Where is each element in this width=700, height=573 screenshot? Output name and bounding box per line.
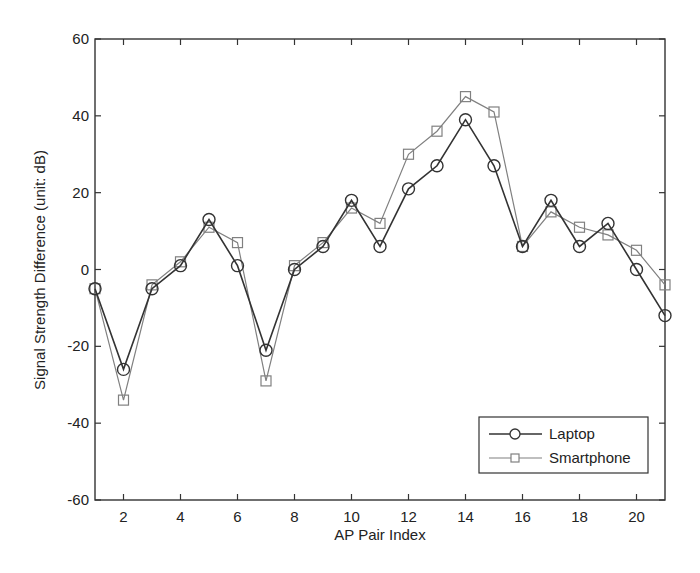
x-tick-label: 18 [571,508,588,525]
series-line [95,120,665,370]
x-tick-label: 20 [628,508,645,525]
legend: LaptopSmartphone [479,417,648,473]
x-tick-label: 8 [290,508,298,525]
legend-label: Smartphone [549,449,631,466]
y-tick-label: 40 [72,107,89,124]
y-tick-label: -40 [67,414,89,431]
line-chart: 2468101214161820-60-40-200204060 AP Pair… [0,0,700,573]
x-tick-label: 12 [400,508,417,525]
y-tick-label: -60 [67,491,89,508]
x-tick-label: 16 [514,508,531,525]
legend-label: Laptop [549,425,595,442]
series-laptop [89,114,671,376]
x-tick-label: 4 [176,508,184,525]
y-tick-label: 20 [72,184,89,201]
x-axis-label: AP Pair Index [334,526,426,543]
y-tick-label: 60 [72,30,89,47]
series-line [95,97,665,400]
x-tick-label: 10 [343,508,360,525]
square-marker-icon [511,454,519,462]
y-tick-label: -20 [67,337,89,354]
series-smartphone [90,92,670,405]
x-tick-label: 2 [119,508,127,525]
x-tick-label: 6 [233,508,241,525]
y-axis-label: Signal Strength Difference (unit: dB) [31,150,48,390]
circle-marker-icon [510,429,520,439]
y-tick-label: 0 [81,261,89,278]
x-tick-label: 14 [457,508,474,525]
series-layer [89,92,671,405]
